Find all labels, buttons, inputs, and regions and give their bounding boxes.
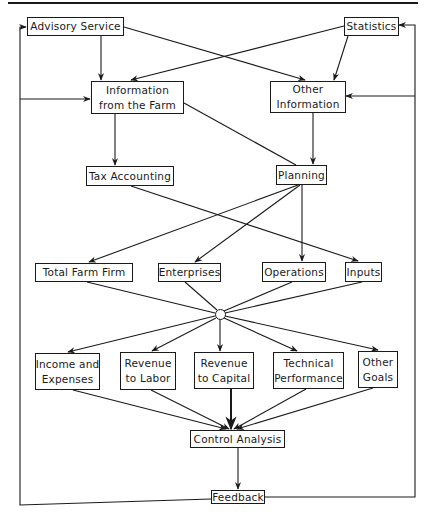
node-revenue-to-labor: Revenue to Labor <box>120 352 176 390</box>
node-enterprises: Enterprises <box>158 263 221 282</box>
node-label: Advisory Service <box>30 19 121 34</box>
node-label-line-2: Performance <box>274 371 343 386</box>
node-total-farm-firm: Total Farm Firm <box>35 263 133 282</box>
farm-management-flow-diagram: Advisory Service Statistics Information … <box>0 0 431 522</box>
node-other-goals: Other Goals <box>358 351 398 388</box>
node-label: Statistics <box>347 19 397 34</box>
node-label-line-2: to Capital <box>198 371 251 386</box>
node-label-line-1: Revenue <box>124 356 171 371</box>
node-control-analysis: Control Analysis <box>190 430 285 448</box>
node-advisory-service: Advisory Service <box>27 17 124 36</box>
node-label-line-2: Expenses <box>42 372 94 387</box>
node-feedback: Feedback <box>211 490 265 504</box>
node-label-line-2: Goals <box>363 370 393 385</box>
node-label: Tax Accounting <box>89 169 171 184</box>
node-label-line-2: from the Farm <box>99 98 176 113</box>
node-label-line-1: Other <box>363 355 394 370</box>
node-label-line-1: Other <box>293 82 324 97</box>
node-label: Total Farm Firm <box>43 265 126 280</box>
node-label-line-1: Revenue <box>200 356 247 371</box>
node-label-line-1: Information <box>106 83 169 98</box>
node-label-line-2: to Labor <box>125 371 170 386</box>
node-inputs: Inputs <box>345 262 382 282</box>
node-label: Feedback <box>212 491 264 503</box>
node-income-and-expenses: Income and Expenses <box>35 353 100 390</box>
node-label-line-1: Income and <box>36 357 100 372</box>
node-statistics: Statistics <box>344 17 399 36</box>
node-label: Operations <box>264 265 324 280</box>
node-label-line-1: Technical <box>283 356 333 371</box>
node-tax-accounting: Tax Accounting <box>86 166 174 186</box>
node-operations: Operations <box>262 262 326 282</box>
node-label: Planning <box>278 168 325 183</box>
node-planning: Planning <box>276 165 327 185</box>
node-technical-performance: Technical Performance <box>273 352 344 389</box>
node-other-information: Other Information <box>270 81 346 113</box>
node-label-line-2: Information <box>277 97 340 112</box>
node-information-from-the-farm: Information from the Farm <box>91 81 184 114</box>
node-label: Inputs <box>347 265 381 280</box>
hub-circle-node <box>215 309 226 320</box>
node-label: Control Analysis <box>194 432 282 447</box>
node-label: Enterprises <box>159 265 221 280</box>
node-revenue-to-capital: Revenue to Capital <box>194 352 254 389</box>
